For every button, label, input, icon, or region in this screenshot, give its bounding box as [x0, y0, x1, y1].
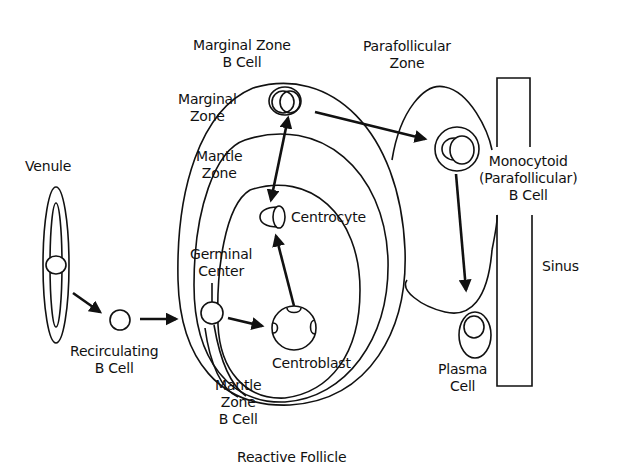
marginal-zone-b-cell-shape — [269, 87, 301, 115]
centroblast-shape — [272, 306, 316, 350]
centrocyte-shape — [260, 206, 285, 228]
arrow-marginal-to-monocytoid — [315, 112, 425, 139]
germinal-center-b-cell-shape — [201, 302, 223, 324]
diagram-canvas — [0, 0, 626, 468]
label-recirculating-b-cell: Recirculating B Cell — [70, 343, 158, 377]
plasma-cell-shape — [459, 312, 491, 358]
label-plasma-cell: Plasma Cell — [438, 361, 487, 395]
parafollicular-zone-shape — [392, 86, 492, 313]
label-centrocyte: Centrocyte — [291, 209, 366, 226]
label-germinal-center: Germinal Center — [190, 246, 252, 280]
monocytoid-b-cell-shape — [435, 127, 479, 171]
label-sinus: Sinus — [542, 258, 579, 275]
label-marginal-zone: Marginal Zone — [178, 91, 237, 125]
label-monocytoid-b-cell: Monocytoid (Parafollicular) B Cell — [479, 153, 577, 204]
label-marginal-zone-b-cell: Marginal Zone B Cell — [193, 37, 291, 71]
label-parafollicular-zone: Parafollicular Zone — [363, 38, 451, 72]
arrow-gc-to-centroblast — [228, 318, 262, 326]
sinus-shape — [492, 78, 532, 386]
label-venule: Venule — [25, 158, 71, 175]
arrow-marginal-centrocyte — [271, 118, 288, 200]
arrow-monocytoid-to-plasma — [456, 174, 466, 290]
arrow-centroblast-to-centrocyte — [276, 236, 294, 306]
recirculating-b-cell-shape — [110, 310, 130, 330]
arrow-venule-to-recirculating — [73, 293, 100, 312]
lymph-node-diagram: Marginal Zone B Cell Parafollicular Zone… — [0, 0, 626, 468]
label-centroblast: Centroblast — [272, 355, 351, 372]
venule-shape — [43, 187, 69, 343]
label-mantle-zone-b-cell: Mantle Zone B Cell — [215, 377, 261, 428]
label-mantle-zone: Mantle Zone — [196, 148, 242, 182]
diagram-title: Reactive Follicle — [237, 449, 346, 466]
